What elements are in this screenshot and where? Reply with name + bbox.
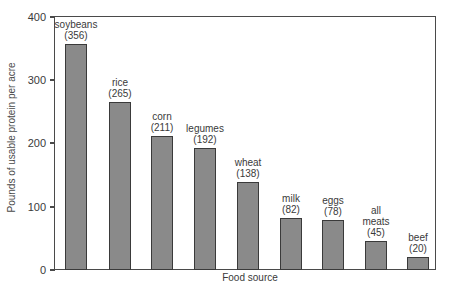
bar-label-line: legumes [175,123,235,134]
bar-eggs [322,220,344,270]
bar-label-line: (20) [388,243,448,254]
bar-all-meats [365,241,387,270]
bar-wheat [237,182,259,270]
y-tick-label: 0 [6,264,46,276]
bar-label-line: (265) [90,88,150,99]
bar-milk [280,218,302,270]
bar-label-line: beef [388,232,448,243]
bar-rice [109,102,131,270]
bar-label-soybeans: soybeans(356) [46,19,106,41]
bar-label-rice: rice(265) [90,77,150,99]
bar-label-line: (192) [175,134,235,145]
bar-label-line: meats [346,216,406,227]
bar-label-line: (356) [46,30,106,41]
y-tick-400 [50,16,55,18]
bar-label-line: rice [90,77,150,88]
y-tick-label: 400 [6,11,46,23]
bar-label-legumes: legumes(192) [175,123,235,145]
y-tick-100 [50,206,55,208]
bar-corn [151,136,173,270]
bar-soybeans [65,44,87,270]
protein-per-acre-bar-chart: 0 100 200 300 400 Pounds of usable prote… [0,0,450,297]
x-axis-title: Food source [200,272,300,283]
bar-label-line: all [346,205,406,216]
bar-label-wheat: wheat(138) [218,157,278,179]
y-axis-title: Pounds of usable protein per acre [6,73,17,213]
bar-label-line: corn [132,111,192,122]
bar-label-beef: beef(20) [388,232,448,254]
bar-label-line: (138) [218,168,278,179]
y-tick-300 [50,79,55,81]
bar-beef [407,257,429,270]
y-tick-0 [50,269,55,271]
bar-label-line: soybeans [46,19,106,30]
y-tick-200 [50,142,55,144]
bar-label-line: wheat [218,157,278,168]
bar-legumes [194,148,216,270]
